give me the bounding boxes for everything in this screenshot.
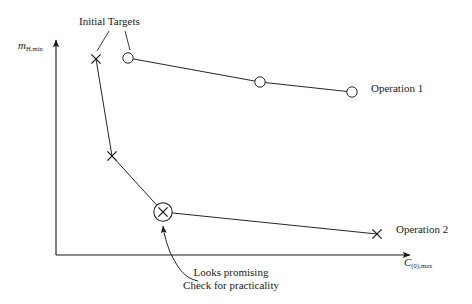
series-operation-2 — [91, 54, 381, 238]
x-axis-label-subscript: (0),max — [411, 262, 432, 269]
callout-note-line-1: Looks promising — [146, 266, 316, 279]
callout-note: Looks promising Check for practicality — [146, 266, 316, 292]
operation-2-point-2 — [107, 151, 116, 160]
x-axis-label: C(0),max — [404, 256, 432, 269]
figure-canvas — [0, 0, 472, 304]
operation-1-line — [128, 58, 352, 92]
operation-1-label: Operation 1 — [371, 82, 423, 95]
callout-note-line-2: Check for practicality — [146, 279, 316, 292]
y-axis-label-subscript: H,min — [26, 45, 43, 52]
operation-2-point-1 — [91, 54, 100, 63]
y-axis-label: mH,min — [18, 39, 43, 52]
operation-2-line — [96, 59, 377, 234]
y-axis-label-main: m — [18, 39, 26, 51]
operation-1-point-2 — [255, 77, 265, 87]
highlighted-point-circled-cross — [154, 203, 172, 221]
series-operation-1 — [123, 53, 357, 97]
axis-lines — [56, 40, 410, 255]
operation-1-point-1 — [123, 53, 133, 63]
initial-targets-label: Initial Targets — [79, 15, 140, 28]
operation-1-point-3 — [347, 87, 357, 97]
leader-to-circle — [125, 31, 130, 50]
leader-to-cross — [97, 31, 109, 51]
initial-targets-leaders — [97, 31, 130, 51]
figure-root: mH,min C(0),max Initial Targets Operatio… — [0, 0, 472, 304]
operation-2-label: Operation 2 — [396, 223, 448, 236]
